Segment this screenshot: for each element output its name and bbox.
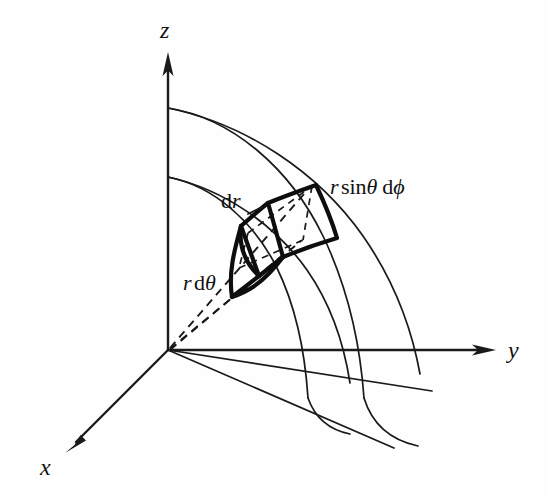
axis-group-z	[163, 52, 174, 350]
spherical-coordinates-diagram	[0, 0, 548, 503]
r-dtheta-label-d: d	[194, 270, 205, 295]
bottom-shell-arcs	[308, 398, 418, 446]
volume-element	[231, 185, 337, 297]
axis-group-x	[65, 350, 168, 453]
dr-label-r: r	[232, 188, 241, 213]
x-axis-label: x	[40, 455, 51, 479]
volume-element-bottom-left-edge	[231, 226, 241, 297]
r-dtheta-label: r dθ	[183, 272, 216, 294]
y-axis-label: y	[508, 338, 519, 362]
rsin-label-r: r	[330, 174, 339, 199]
r-dtheta-label-theta: θ	[205, 270, 216, 295]
inner-shell-bottom-arc	[308, 398, 350, 434]
wedge-bottom-rays	[168, 350, 432, 448]
x-axis-arrowhead	[65, 435, 86, 453]
outer-shell-meridian-back	[168, 108, 420, 374]
wedge-ray-near	[168, 350, 432, 391]
rsin-label-theta: θ	[367, 174, 378, 199]
figure-canvas: z y x dr r dθ r sinθ dϕ	[0, 0, 548, 503]
axis-group-y	[168, 345, 496, 356]
z-axis-label: z	[160, 18, 169, 42]
dr-label-d: d	[221, 188, 232, 213]
rsin-label-phi: ϕ	[393, 174, 404, 199]
x-axis-line	[76, 350, 168, 442]
r-sin-theta-dphi-label: r sinθ dϕ	[330, 176, 405, 198]
rsin-label-sin: sin	[341, 174, 367, 199]
dr-label: dr	[221, 190, 241, 212]
r-dtheta-label-r: r	[183, 270, 192, 295]
rsin-label-d: d	[382, 174, 393, 199]
